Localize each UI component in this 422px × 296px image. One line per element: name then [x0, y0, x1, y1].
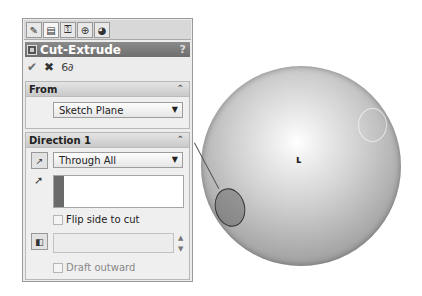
collapse-chevron-icon[interactable]: ⌃	[176, 134, 184, 144]
reverse-direction-icon: ↗	[36, 156, 44, 166]
from-group: From ⌃ Sketch Plane ▼	[25, 81, 190, 129]
property-manager-panel: ✎ ▤ ⚿ ⊕ ◕ Cut-Extrude ? ✔ ✖ 6∂ From ⌃ Sk…	[22, 18, 193, 282]
cut-extrude-feature-icon	[27, 45, 37, 55]
flip-side-to-cut-label: Flip side to cut	[66, 214, 139, 225]
selection-color-bar	[54, 176, 64, 207]
configuration-manager-tab-icon[interactable]: ⚿	[60, 22, 76, 38]
from-group-header[interactable]: From ⌃	[26, 82, 189, 97]
dropdown-arrow-icon: ▼	[172, 105, 178, 114]
draft-on-off-button[interactable]: ◧	[31, 233, 48, 250]
checkbox-box[interactable]	[53, 215, 63, 225]
draft-angle-input[interactable]	[53, 233, 174, 253]
draft-outward-checkbox[interactable]: Draft outward	[53, 262, 135, 273]
checkbox-box[interactable]	[53, 263, 63, 273]
display-manager-tab-icon[interactable]: ◕	[94, 22, 110, 38]
direction1-group-title: Direction 1	[29, 135, 91, 146]
direction1-group-header[interactable]: Direction 1 ⌃	[26, 133, 189, 148]
flip-side-to-cut-checkbox[interactable]: Flip side to cut	[53, 214, 139, 225]
spin-up-icon[interactable]: ▲	[178, 234, 183, 242]
help-icon[interactable]: ?	[180, 43, 186, 56]
direction-of-extrusion-icon: ➚	[34, 174, 43, 187]
sphere-silhouette	[201, 66, 401, 266]
feature-title-bar: Cut-Extrude ?	[25, 42, 190, 57]
dimxpert-manager-tab-icon[interactable]: ⊕	[77, 22, 93, 38]
feature-title: Cut-Extrude	[40, 43, 121, 57]
spin-down-icon[interactable]: ▼	[178, 245, 183, 253]
property-manager-tab-icon[interactable]: ▤	[43, 22, 59, 38]
manager-tabs: ✎ ▤ ⚿ ⊕ ◕	[24, 20, 191, 40]
draft-icon: ◧	[35, 237, 44, 247]
direction1-group: Direction 1 ⌃ ↗ Through All ▼ ➚ Flip sid…	[25, 132, 190, 280]
cancel-x-icon[interactable]: ✖	[44, 60, 54, 74]
origin-marker-icon: ʟ	[296, 154, 301, 165]
from-selected-value: Sketch Plane	[59, 105, 123, 116]
reverse-direction-button[interactable]: ↗	[31, 152, 48, 169]
direction-of-extrusion-selection-box[interactable]	[53, 175, 184, 208]
dropdown-arrow-icon: ▼	[172, 155, 178, 164]
from-start-condition-select[interactable]: Sketch Plane ▼	[53, 102, 183, 118]
collapse-chevron-icon[interactable]: ⌃	[176, 83, 184, 93]
end-condition-value: Through All	[59, 155, 116, 166]
end-condition-select[interactable]: Through All ▼	[53, 152, 183, 168]
detailed-preview-icon[interactable]: 6∂	[61, 61, 74, 74]
ok-checkmark-icon[interactable]: ✔	[27, 60, 37, 74]
faint-sketch-circle	[358, 108, 387, 142]
draft-outward-label: Draft outward	[66, 262, 135, 273]
feature-manager-tab-icon[interactable]: ✎	[26, 22, 42, 38]
from-group-title: From	[29, 84, 57, 95]
action-buttons: ✔ ✖ 6∂	[27, 60, 74, 74]
